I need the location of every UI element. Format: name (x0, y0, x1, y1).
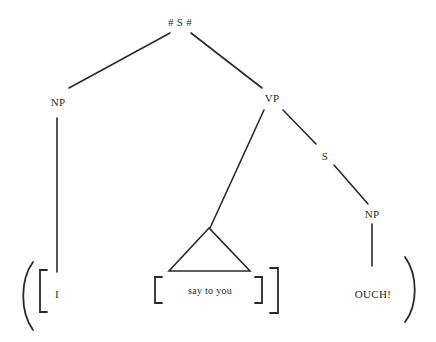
subject-np-label: NP (51, 96, 66, 108)
edge-root-np (69, 33, 170, 88)
edge-s-np (334, 165, 368, 204)
edge-vp-s (283, 110, 316, 144)
leaf-verb-phrase: say to you (188, 285, 232, 296)
object-np-label: NP (365, 208, 380, 220)
edge-vp-triangle (210, 110, 264, 228)
left-bracket-inner (155, 277, 162, 303)
edge-root-vp (191, 33, 262, 88)
triangle-node (169, 228, 250, 271)
embedded-s-label: S (322, 150, 328, 162)
left-paren (23, 262, 33, 330)
left-bracket-outer (40, 270, 47, 312)
root-node-label: # S # (168, 16, 192, 28)
right-bracket-outer (270, 268, 278, 313)
leaf-quote: OUCH! (355, 288, 391, 300)
vp-label: VP (265, 92, 280, 104)
right-paren (405, 257, 415, 322)
leaf-subject: I (55, 288, 59, 300)
right-bracket-inner (255, 277, 262, 303)
